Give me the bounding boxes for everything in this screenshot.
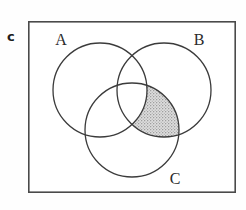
set-label-b: B: [194, 31, 205, 48]
venn-diagram: A B C: [0, 0, 246, 210]
set-label-c: C: [170, 170, 181, 187]
figure-panel: c A: [0, 0, 246, 210]
set-label-a: A: [55, 31, 67, 48]
